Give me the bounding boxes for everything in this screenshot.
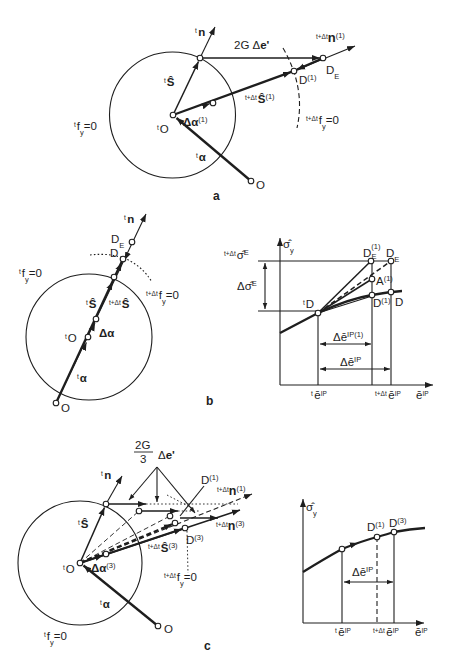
label-o: O — [164, 623, 173, 635]
figure: tn 2G Δe' t+Δtn(1) DE D(1) tŜ t+ΔtŜ(1) t… — [0, 0, 459, 670]
fraction-denominator: 3 — [140, 453, 146, 465]
label-2g-de: 2G Δe' — [234, 39, 270, 51]
label-o: O — [256, 179, 265, 191]
caption-c: c — [204, 639, 211, 653]
fraction-numerator: 2G — [135, 439, 150, 451]
caption-a: a — [213, 189, 220, 203]
label-d: D — [110, 247, 118, 259]
label-de-prime: Δe' — [158, 449, 175, 461]
label-o: O — [61, 402, 70, 414]
label-d: D — [395, 296, 403, 308]
label-dalpha: Δα — [99, 327, 114, 339]
caption-b: b — [206, 394, 213, 408]
